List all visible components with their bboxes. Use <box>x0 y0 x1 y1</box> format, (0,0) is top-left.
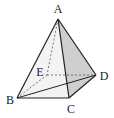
vertex-label-D: D <box>100 69 109 83</box>
vertex-label-E: E <box>36 65 43 79</box>
vertex-label-A: A <box>54 2 63 16</box>
pyramid-diagram: A B C D E <box>0 0 114 118</box>
vertex-label-B: B <box>6 93 14 107</box>
vertex-label-C: C <box>67 102 75 116</box>
